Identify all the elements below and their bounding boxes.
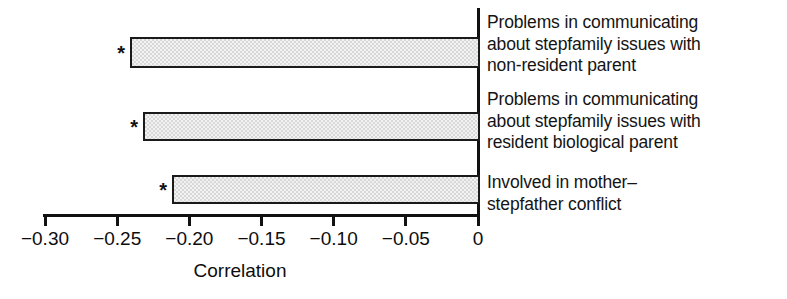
bar-1 [143,112,480,141]
significance-marker-2: * [159,180,172,200]
bar-0 [130,37,480,68]
x-tick-1 [116,217,119,226]
x-tick-2 [188,217,191,226]
category-label-2: Involved in mother– stepfather conflict [487,172,783,215]
x-axis-title: Correlation [0,260,480,282]
bar-2 [172,175,480,204]
x-tick-label-6: 0 [473,228,484,250]
x-tick-label-1: −0.25 [93,228,141,250]
x-tick-label-3: −0.15 [237,228,285,250]
x-tick-label-0: −0.30 [21,228,69,250]
bar-chart-figure: −0.30−0.25−0.20−0.15−0.10−0.050 *** Corr… [0,0,787,299]
category-label-1: Problems in communicating about stepfami… [487,89,783,154]
category-label-0: Problems in communicating about stepfami… [487,12,783,77]
significance-marker-1: * [130,117,143,137]
x-tick-label-4: −0.10 [310,228,358,250]
x-tick-6 [477,217,480,226]
plot-area: −0.30−0.25−0.20−0.15−0.10−0.050 *** Corr… [0,0,480,225]
x-tick-5 [404,217,407,226]
x-tick-0 [44,217,47,226]
significance-marker-0: * [117,43,130,63]
x-tick-label-2: −0.20 [165,228,213,250]
x-tick-4 [332,217,335,226]
x-tick-3 [260,217,263,226]
x-tick-label-5: −0.05 [382,228,430,250]
